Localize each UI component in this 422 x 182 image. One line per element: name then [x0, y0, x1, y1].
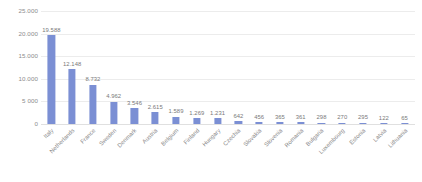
x-axis-tick: Denmark: [124, 126, 145, 182]
bar-group[interactable]: 65: [394, 11, 415, 124]
bar-value-label: 1.231: [210, 111, 225, 117]
bar[interactable]: [214, 118, 221, 124]
x-axis-tick: Netherlands: [62, 126, 83, 182]
y-axis-tick-label: 25.000: [18, 8, 38, 14]
x-axis-tick: Belgium: [166, 126, 187, 182]
bar[interactable]: [276, 122, 283, 124]
x-axis-tick: Romania: [290, 126, 311, 182]
bar[interactable]: [193, 118, 200, 124]
bar[interactable]: [339, 123, 346, 124]
bar-group[interactable]: 456: [249, 11, 270, 124]
bar-group[interactable]: 1.589: [166, 11, 187, 124]
x-axis-tick: Estonia: [353, 126, 374, 182]
bar[interactable]: [48, 35, 55, 124]
bar-group[interactable]: 2.615: [145, 11, 166, 124]
bar-value-label: 295: [358, 115, 368, 121]
plot-area: 19.58812.1488.7324.9623.5462.6151.5891.2…: [41, 11, 415, 124]
x-axis-tick: Slovakia: [249, 126, 270, 182]
bar-group[interactable]: 19.588: [41, 11, 62, 124]
bar-value-label: 1.589: [169, 109, 184, 115]
bar-value-label: 456: [254, 115, 264, 121]
bar[interactable]: [318, 123, 325, 124]
x-axis-tick: Slovenia: [270, 126, 291, 182]
x-axis-tick: Finland: [186, 126, 207, 182]
y-axis-tick-label: 10.000: [18, 76, 38, 82]
bar[interactable]: [131, 108, 138, 124]
bar-value-label: 2.615: [148, 105, 163, 111]
bar-group[interactable]: 1.269: [186, 11, 207, 124]
x-axis-tick: Austria: [145, 126, 166, 182]
bar-group[interactable]: 1.231: [207, 11, 228, 124]
x-axis-tick: Luxembourg: [332, 126, 353, 182]
bar-group[interactable]: 8.732: [83, 11, 104, 124]
bar-group[interactable]: 295: [353, 11, 374, 124]
y-axis-tick-label: 0: [34, 121, 38, 127]
bar-value-label: 270: [337, 115, 347, 121]
bar-value-label: 4.962: [106, 94, 121, 100]
y-axis-tick-label: 20.000: [18, 30, 38, 36]
bar-group[interactable]: 270: [332, 11, 353, 124]
bar[interactable]: [89, 85, 96, 124]
x-axis-tick: Lithuania: [394, 126, 415, 182]
y-axis-tick-label: 5 000: [22, 98, 38, 104]
bar-value-label: 65: [401, 116, 408, 122]
bar-value-label: 3.546: [127, 101, 142, 107]
bar-value-label: 12.148: [63, 62, 81, 68]
bar-group[interactable]: 4.962: [103, 11, 124, 124]
bar[interactable]: [152, 112, 159, 124]
bar-value-label: 8.732: [85, 77, 100, 83]
bar-value-label: 642: [233, 114, 243, 120]
bar[interactable]: [256, 122, 263, 124]
bar-group[interactable]: 298: [311, 11, 332, 124]
x-axis-tick-label: Latvia: [372, 128, 388, 144]
x-axis-tick-label: Austria: [142, 128, 159, 145]
bar-value-label: 122: [379, 116, 389, 122]
y-axis: 25.00020.00015.00010.0005 0000: [0, 11, 38, 124]
bar[interactable]: [297, 122, 304, 124]
bar[interactable]: [401, 123, 408, 124]
bar-value-label: 1.269: [189, 111, 204, 117]
bar-group[interactable]: 12.148: [62, 11, 83, 124]
x-axis-tick-label: France: [80, 128, 97, 145]
bar-value-label: 19.588: [42, 28, 60, 34]
bar[interactable]: [69, 69, 76, 124]
x-axis-tick-label: Finland: [183, 128, 201, 146]
bar[interactable]: [110, 102, 117, 124]
bar[interactable]: [359, 123, 366, 124]
bar-group[interactable]: 365: [270, 11, 291, 124]
x-axis-tick: Czechia: [228, 126, 249, 182]
bar-chart: 25.00020.00015.00010.0005 0000 19.58812.…: [0, 0, 422, 182]
x-axis-tick: Latvia: [373, 126, 394, 182]
bar-value-label: 298: [316, 115, 326, 121]
bar-series: 19.58812.1488.7324.9623.5462.6151.5891.2…: [41, 11, 415, 124]
bar[interactable]: [172, 117, 179, 124]
bar-group[interactable]: 361: [290, 11, 311, 124]
bar-value-label: 365: [275, 115, 285, 121]
bar-group[interactable]: 122: [373, 11, 394, 124]
bar-value-label: 361: [296, 115, 306, 121]
bar[interactable]: [380, 123, 387, 124]
bar-group[interactable]: 3.546: [124, 11, 145, 124]
x-axis-tick: France: [83, 126, 104, 182]
y-axis-tick-label: 15.000: [18, 53, 38, 59]
bar-group[interactable]: 642: [228, 11, 249, 124]
x-axis-tick: Hungary: [207, 126, 228, 182]
x-axis-tick: Sweden: [103, 126, 124, 182]
gridline: [41, 124, 415, 125]
x-axis-tick-label: Italy: [44, 128, 56, 140]
bar[interactable]: [235, 121, 242, 124]
x-axis: ItalyNetherlandsFranceSwedenDenmarkAustr…: [41, 126, 415, 182]
